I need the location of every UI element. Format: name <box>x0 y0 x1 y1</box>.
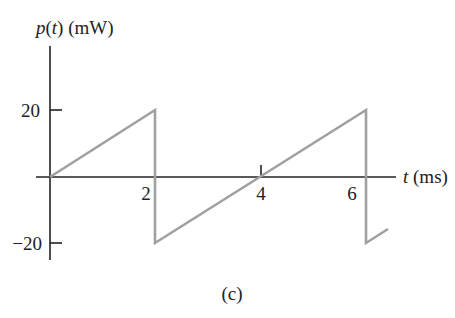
y-axis-label: p(t) (mW) <box>34 17 114 39</box>
power-waveform-chart: p(t) (mW) 20 −20 2 4 6 t (ms) (c) <box>0 0 455 318</box>
x-tick-label-2: 2 <box>141 183 151 204</box>
y-tick-label-20: 20 <box>21 100 40 121</box>
x-axis-label: t (ms) <box>403 166 448 188</box>
figure-caption: (c) <box>221 283 242 305</box>
x-tick-label-6: 6 <box>347 183 357 204</box>
y-tick-label-neg20: −20 <box>12 233 42 254</box>
x-tick-label-4: 4 <box>256 183 266 204</box>
